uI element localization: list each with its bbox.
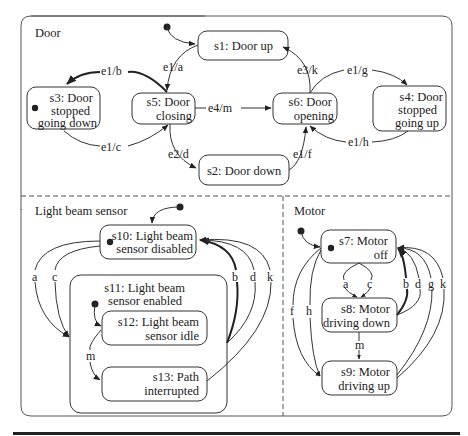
state-s6[interactable]: s6: Door opening (273, 93, 337, 124)
bottom-rule (13, 432, 460, 435)
transition-label-motor-h: h (306, 304, 312, 318)
transition-s3-s5-b[interactable] (128, 125, 168, 146)
transition-label-motor-f: f (290, 304, 294, 318)
transition-s5-s3-b[interactable] (67, 72, 100, 84)
transition-s10-s11-a-top[interactable] (35, 241, 100, 270)
state-s5[interactable]: s5: Door closing (132, 93, 195, 124)
transition-s8-s7-b-top[interactable] (398, 248, 406, 278)
svg-text:s6: Door: s6: Door (289, 95, 333, 109)
transition-s4-s6-a[interactable] (372, 131, 408, 142)
state-s12[interactable]: s12: Light beam sensor idle (102, 311, 207, 345)
transition-label-motor-g: g (428, 277, 434, 291)
svg-text:interrupted: interrupted (144, 384, 200, 398)
initial-transition-door (167, 27, 195, 44)
transition-label-c: c (52, 270, 57, 284)
state-s3[interactable]: s3: Door stopped going down (27, 87, 100, 130)
transition-label-motor-k: k (440, 277, 446, 291)
region-label-motor: Motor (294, 204, 326, 218)
svg-text:closing: closing (156, 109, 193, 123)
transition-label-e1a: e1/a (163, 60, 184, 74)
svg-text:sensor enabled: sensor enabled (108, 294, 183, 308)
transition-s9-s7-g-bot[interactable] (397, 289, 432, 375)
transition-label-motor-a: a (343, 277, 349, 291)
state-s7[interactable]: s7: Motor off (321, 230, 396, 263)
svg-text:s3: Door: s3: Door (50, 91, 94, 105)
transition-s6-s4-b[interactable] (372, 70, 407, 85)
svg-text:going down: going down (38, 116, 98, 130)
region-label-door: Door (35, 26, 62, 40)
svg-text:s11: Light beam: s11: Light beam (104, 281, 185, 295)
transition-s4-s6-b[interactable] (310, 126, 346, 142)
history-dot-s7 (328, 245, 334, 251)
svg-text:going up: going up (395, 116, 439, 130)
svg-text:sensor idle: sensor idle (145, 329, 199, 343)
transition-label-e4m: e4/m (208, 101, 233, 115)
transition-label-e1f: e1/f (293, 147, 312, 161)
region-label-light-beam-sensor: Light beam sensor (35, 204, 128, 218)
svg-text:s12: Light beam: s12: Light beam (118, 315, 200, 329)
state-s4[interactable]: s4: Door stopped going up (373, 86, 446, 131)
transition-s3-s5-a[interactable] (64, 131, 100, 146)
transition-label-b: b (232, 270, 238, 284)
svg-text:sensor disabled: sensor disabled (116, 242, 193, 256)
transition-label-motor-d: d (415, 277, 421, 291)
transition-label-d: d (250, 270, 256, 284)
svg-text:opening: opening (294, 109, 335, 123)
transition-label-e1h: e1/h (348, 135, 369, 149)
transition-label-a: a (32, 270, 38, 284)
transition-label-e1g: e1/g (347, 63, 368, 77)
transition-s5-s2[interactable] (170, 124, 196, 168)
state-diagram: Door Light beam sensor Motor s1: Door up… (0, 0, 468, 436)
state-s10[interactable]: s10: Light beam sensor disabled (100, 225, 196, 259)
svg-text:s8: Motor: s8: Motor (341, 302, 391, 316)
history-dot-s3 (32, 105, 38, 111)
transition-label-motor-m: m (355, 338, 365, 352)
svg-text:s4: Door: s4: Door (400, 90, 444, 104)
svg-text:stopped: stopped (398, 103, 438, 117)
transition-s7-s9-h-bot[interactable] (310, 318, 320, 376)
svg-text:s10: Light beam: s10: Light beam (112, 229, 194, 243)
transition-label-e2d: e2/d (168, 147, 189, 161)
transition-label-m: m (86, 349, 96, 363)
transition-label-motor-c: c (367, 277, 372, 291)
svg-text:s7: Motor: s7: Motor (339, 234, 389, 248)
transition-s10-s11-c-top[interactable] (55, 246, 100, 270)
svg-text:s5: Door: s5: Door (147, 95, 191, 109)
transition-label-motor-b: b (403, 277, 409, 291)
initial-transition-motor (301, 231, 320, 247)
svg-text:off: off (374, 248, 389, 262)
state-s1[interactable]: s1: Door up (198, 31, 288, 60)
svg-text:driving up: driving up (338, 379, 390, 393)
transition-label-e1c: e1/c (101, 140, 121, 154)
svg-text:s2: Door down: s2: Door down (207, 164, 282, 178)
transition-s5-s3-a[interactable] (128, 72, 167, 92)
transition-s7-s9-f-bot[interactable] (293, 318, 320, 376)
transition-s7-s9-f-top[interactable] (293, 248, 321, 305)
state-s9[interactable]: s9: Motor driving up (322, 361, 397, 395)
state-s13[interactable]: s13: Path interrupted (102, 367, 207, 401)
transition-label-k: k (267, 270, 273, 284)
state-s8[interactable]: s8: Motor driving down (322, 298, 397, 332)
svg-text:s9: Motor: s9: Motor (341, 365, 391, 379)
svg-text:s1: Door up: s1: Door up (214, 39, 273, 53)
transition-label-e1b: e1/b (101, 64, 122, 78)
state-s2[interactable]: s2: Door down (199, 155, 289, 185)
initial-transition-sensor (152, 207, 180, 223)
svg-text:s13: Path: s13: Path (153, 370, 200, 384)
transition-s7-s9-h-top[interactable] (310, 250, 321, 305)
svg-text:driving down: driving down (323, 316, 391, 330)
transition-label-e3k: e3/k (297, 63, 318, 77)
